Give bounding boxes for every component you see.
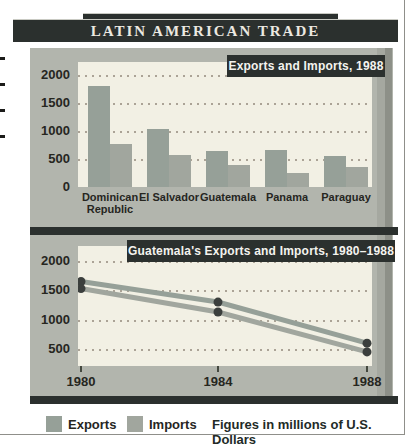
panel-shadow-inner [377, 48, 385, 403]
x-axis-label-1980: 1980 [51, 374, 111, 389]
x-axis-label-1984: 1984 [188, 374, 248, 389]
line-chart-plot-area [78, 246, 372, 366]
y-axis-label-500: 500 [26, 341, 70, 357]
gridline-1000 [78, 131, 372, 133]
x-tick-1984 [217, 366, 219, 372]
exports-legend-swatch [46, 416, 62, 432]
chart-separator-band [30, 227, 398, 235]
panel-shadow-outer [385, 48, 392, 403]
y-axis-label-1000: 1000 [26, 312, 70, 328]
exports-point-1984 [214, 298, 223, 307]
imports-line [81, 289, 367, 352]
imports-bar-2 [169, 155, 191, 187]
exports-legend-label: Exports [68, 417, 116, 432]
y-axis-label-2000: 2000 [26, 67, 70, 83]
figure-root: LATIN AMERICAN TRADE Exports and Imports… [0, 0, 413, 448]
gridline-1500 [78, 103, 372, 105]
exports-bar-4 [265, 150, 287, 187]
imports-legend-label: Imports [149, 417, 197, 432]
exports-bar-3 [206, 151, 228, 187]
x-tick-1988 [366, 366, 368, 372]
page-edge-mark [0, 109, 5, 112]
bar-chart-plot-area [78, 62, 372, 187]
imports-bar-3 [228, 165, 250, 187]
imports-legend-swatch [127, 416, 143, 432]
x-tick-1980 [80, 366, 82, 372]
exports-bar-5 [324, 156, 346, 187]
bar-chart-title-badge: Exports and Imports, 1988 [227, 55, 385, 77]
page-edge-mark [0, 83, 5, 86]
exports-bar-1 [88, 86, 110, 187]
figure-border-right [404, 0, 405, 435]
panel-bottom-band [30, 396, 398, 404]
page-edge-mark [0, 135, 5, 138]
exports-bar-2 [147, 129, 169, 187]
category-label-5: Paraguay [311, 192, 381, 204]
imports-point-1984 [214, 308, 223, 317]
figure-title: LATIN AMERICAN TRADE [13, 19, 398, 42]
page-edge-mark [0, 57, 5, 60]
units-note: Figures in millions of U.S. Dollars [212, 417, 413, 447]
imports-bar-1 [110, 144, 132, 187]
y-axis-label-1000: 1000 [26, 123, 70, 139]
imports-bar-4 [287, 173, 309, 187]
imports-bar-5 [346, 167, 368, 187]
imports-point-1988 [363, 347, 372, 356]
trend-lines [78, 246, 372, 366]
y-axis-label-500: 500 [26, 151, 70, 167]
y-axis-label-2000: 2000 [26, 253, 70, 269]
line-chart-title-badge: Guatemala's Exports and Imports, 1980–19… [127, 240, 395, 262]
imports-point-1980 [78, 284, 86, 293]
exports-point-1988 [363, 339, 372, 348]
x-axis-label-1988: 1988 [337, 374, 397, 389]
y-axis-label-1500: 1500 [26, 282, 70, 298]
y-axis-label-0: 0 [26, 179, 70, 195]
y-axis-label-1500: 1500 [26, 95, 70, 111]
